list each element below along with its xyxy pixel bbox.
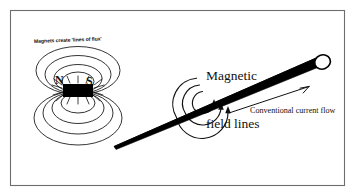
figure-root: Magnets create 'lines of flux' Magnetic … bbox=[0, 0, 354, 196]
south-pole-label: S bbox=[86, 75, 93, 88]
north-pole-label: N bbox=[55, 74, 64, 87]
magnetic-field-lines-line-1: Magnetic bbox=[206, 68, 260, 84]
magnetic-field-lines-label: Magnetic field lines bbox=[206, 36, 260, 163]
diagram-canvas bbox=[0, 0, 354, 196]
magnetic-field-lines-line-2: field lines bbox=[206, 116, 260, 132]
conventional-current-flow-label: Conventional current flow bbox=[250, 107, 335, 115]
